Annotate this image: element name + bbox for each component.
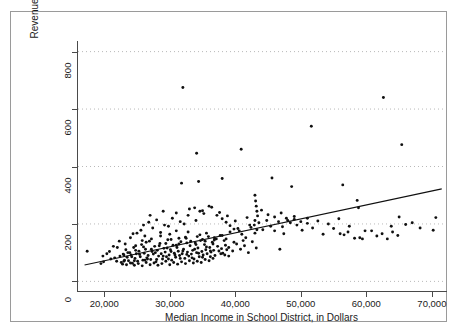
y-tick-label: 800	[62, 50, 73, 90]
x-axis-title: Median Income in School District, in Dol…	[78, 312, 445, 323]
y-tick-mark	[72, 167, 77, 168]
y-axis-title: Revenue Raised by 1 Mill per Pupil, in D…	[29, 0, 43, 52]
x-tick-mark	[170, 292, 171, 297]
x-tick-label: 70,000	[402, 298, 456, 309]
x-tick-mark	[366, 292, 367, 297]
x-tick-mark	[432, 292, 433, 297]
x-tick-label: 50,000	[271, 298, 331, 309]
scatter-plot-figure: Revenue Raised by 1 Mill per Pupil, in D…	[0, 0, 456, 334]
y-tick-mark	[72, 52, 77, 53]
plot-area	[78, 43, 445, 290]
plot-canvas	[78, 43, 445, 290]
y-tick-label: 0	[62, 280, 73, 320]
x-tick-label: 20,000	[74, 298, 134, 309]
x-tick-mark	[235, 292, 236, 297]
regression-line	[85, 189, 442, 265]
x-tick-label: 60,000	[336, 298, 396, 309]
y-tick-mark	[72, 281, 77, 282]
x-tick-mark	[104, 292, 105, 297]
data-points	[86, 86, 438, 267]
y-tick-mark	[72, 109, 77, 110]
y-tick-mark	[72, 224, 77, 225]
x-tick-mark	[301, 292, 302, 297]
x-tick-label: 30,000	[140, 298, 200, 309]
x-tick-label: 40,000	[205, 298, 265, 309]
y-tick-label: 200	[62, 222, 73, 262]
figure-frame: Revenue Raised by 1 Mill per Pupil, in D…	[10, 11, 447, 322]
x-axis-line	[77, 291, 447, 292]
y-tick-label: 400	[62, 165, 73, 205]
y-tick-label: 600	[62, 108, 73, 148]
